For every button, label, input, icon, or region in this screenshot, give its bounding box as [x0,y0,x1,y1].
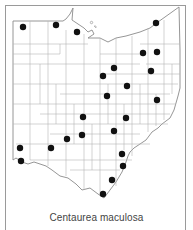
occurrence-dot [64,136,70,142]
occurrence-dot [119,151,125,157]
occurrence-dot [154,97,160,103]
lake-island [90,21,93,24]
occurrence-dot [111,65,117,71]
occurrence-dot [111,128,117,134]
occurrence-dot [124,83,130,89]
occurrence-dot [148,68,154,74]
occurrence-dot [53,22,59,28]
occurrence-dot [100,191,106,197]
occurrence-dot [48,145,54,151]
occurrence-dot [109,177,115,183]
state-outline [13,7,180,198]
occurrence-dot [18,158,24,164]
occurrence-dot [80,114,86,120]
occurrence-dot [154,49,160,55]
occurrence-dots [17,20,160,197]
occurrence-dot [153,20,159,26]
occurrence-dot [140,50,146,56]
county-lines [13,20,180,196]
ohio-county-map [0,0,193,230]
occurrence-dot [20,24,26,30]
occurrence-dot [79,132,85,138]
occurrence-dot [74,29,80,35]
occurrence-dot [104,93,110,99]
occurrence-dot [123,115,129,121]
occurrence-dot [100,73,106,79]
occurrence-dot [120,163,126,169]
lake-island [94,26,96,28]
species-caption: Centaurea maculosa [0,212,193,223]
occurrence-dot [17,145,23,151]
